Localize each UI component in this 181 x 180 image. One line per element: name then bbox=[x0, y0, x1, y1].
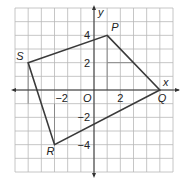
vertex-labels: PQRS bbox=[16, 21, 167, 156]
y-tick-label: −2 bbox=[77, 111, 90, 123]
vertex-label-q: Q bbox=[158, 92, 167, 104]
origin-label: O bbox=[83, 92, 92, 104]
vertex-label-s: S bbox=[16, 50, 24, 62]
x-axis-arrow-left-icon bbox=[11, 88, 16, 92]
y-tick-label: 2 bbox=[84, 57, 90, 69]
y-axis-arrow-down-icon bbox=[92, 173, 96, 178]
coordinate-plane: −2242−2−4 PQRS x y O bbox=[0, 0, 181, 180]
x-tick-label: 2 bbox=[117, 92, 123, 104]
x-axis-arrow-right-icon bbox=[175, 88, 180, 92]
vertex-label-p: P bbox=[111, 21, 119, 33]
x-axis-label: x bbox=[162, 76, 169, 88]
y-axis-arrow-up-icon bbox=[92, 5, 96, 10]
y-tick-label: −4 bbox=[77, 139, 90, 151]
vertex-label-r: R bbox=[47, 145, 55, 157]
axes bbox=[11, 5, 180, 178]
y-tick-label: 4 bbox=[84, 29, 90, 41]
x-tick-label: −2 bbox=[55, 92, 68, 104]
